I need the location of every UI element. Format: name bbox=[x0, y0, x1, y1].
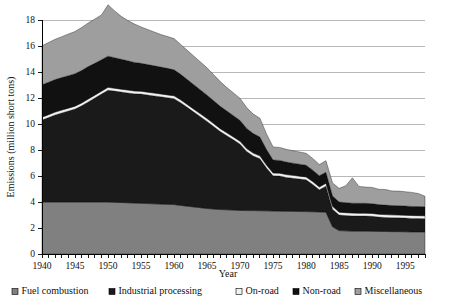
legend-label-on-road: On-road bbox=[246, 285, 279, 296]
y-tick-label: 16 bbox=[26, 41, 36, 51]
y-axis-title: Emissions (million short tons) bbox=[5, 77, 17, 198]
legend-label-industrial-processing: Industrial processing bbox=[119, 285, 203, 296]
y-tick-label: 14 bbox=[26, 67, 36, 77]
y-tick-label: 0 bbox=[30, 249, 35, 259]
area-bands bbox=[42, 5, 425, 254]
x-tick-label: 1955 bbox=[132, 261, 151, 271]
y-tick-label: 6 bbox=[30, 171, 35, 181]
legend-swatch-industrial-processing bbox=[109, 289, 115, 295]
legend-swatch-fuel-combustion bbox=[12, 289, 18, 295]
y-tick-label: 12 bbox=[26, 93, 36, 103]
x-tick-label: 1990 bbox=[363, 261, 382, 271]
y-tick-label: 2 bbox=[30, 223, 35, 233]
y-tick-label: 4 bbox=[30, 197, 35, 207]
legend-label-fuel-combustion: Fuel combustion bbox=[22, 285, 89, 296]
x-axis-title: Year bbox=[219, 268, 238, 279]
chart-legend: Fuel combustionIndustrial processingOn-r… bbox=[12, 285, 422, 296]
legend-label-miscellaneous: Miscellaneous bbox=[365, 285, 423, 296]
legend-swatch-on-road bbox=[236, 289, 242, 295]
stacked-area-chart: 1940194519501955196019651970197519801985… bbox=[0, 0, 454, 305]
y-tick-label: 10 bbox=[26, 119, 36, 129]
legend-label-non-road: Non-road bbox=[303, 285, 341, 296]
legend-swatch-miscellaneous bbox=[355, 289, 361, 295]
x-tick-label: 1995 bbox=[396, 261, 415, 271]
x-axis-ticks bbox=[42, 254, 425, 258]
y-axis-ticks bbox=[38, 20, 42, 254]
x-tick-label: 1960 bbox=[165, 261, 184, 271]
x-tick-label: 1980 bbox=[297, 261, 316, 271]
y-tick-label: 8 bbox=[30, 145, 35, 155]
x-tick-label: 1975 bbox=[264, 261, 283, 271]
x-tick-label: 1940 bbox=[33, 261, 52, 271]
legend-swatch-non-road bbox=[293, 289, 299, 295]
chart-container: 1940194519501955196019651970197519801985… bbox=[0, 0, 454, 305]
x-tick-label: 1965 bbox=[198, 261, 217, 271]
x-tick-label: 1985 bbox=[330, 261, 349, 271]
y-axis-tick-labels: 024681012141618 bbox=[26, 15, 36, 259]
y-tick-label: 18 bbox=[26, 15, 36, 25]
x-tick-label: 1945 bbox=[66, 261, 85, 271]
x-tick-label: 1950 bbox=[99, 261, 118, 271]
